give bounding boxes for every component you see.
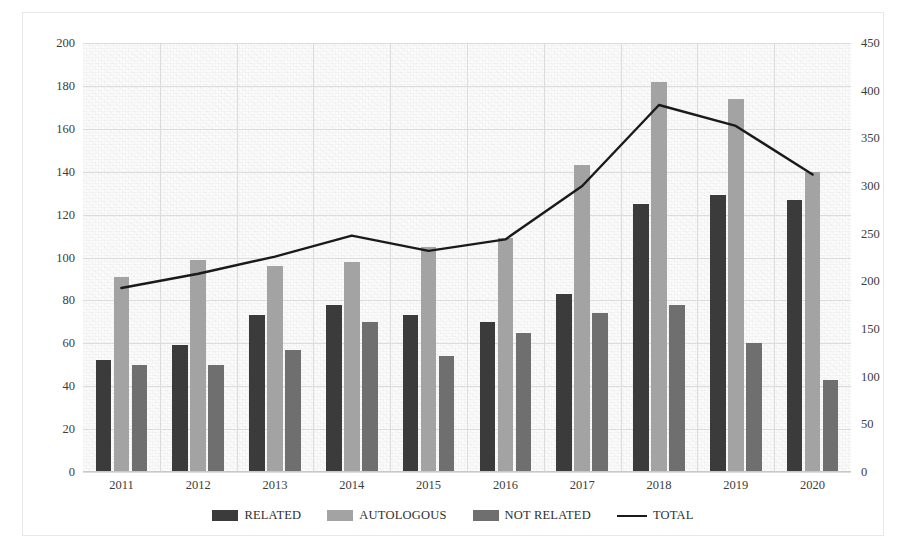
y-tick-right-50: 50 <box>861 418 907 431</box>
legend-item-related[interactable]: RELATED <box>212 508 301 523</box>
y-tick-right-350: 350 <box>861 132 907 145</box>
y-tick-left-40: 40 <box>29 380 75 393</box>
legend-label: NOT RELATED <box>505 508 591 523</box>
x-tick-2012: 2012 <box>160 479 237 492</box>
y-tick-right-200: 200 <box>861 275 907 288</box>
total-line-path <box>121 105 812 288</box>
y-tick-left-100: 100 <box>29 252 75 265</box>
legend-label: RELATED <box>244 508 301 523</box>
x-tick-2014: 2014 <box>313 479 390 492</box>
chart-frame: 020406080100120140160180200 050100150200… <box>22 12 884 536</box>
x-tick-2017: 2017 <box>544 479 621 492</box>
x-tick-2019: 2019 <box>697 479 774 492</box>
gridline-horizontal <box>83 472 851 473</box>
y-tick-right-250: 250 <box>861 228 907 241</box>
y-tick-left-160: 160 <box>29 123 75 136</box>
y-tick-left-60: 60 <box>29 337 75 350</box>
x-tick-2011: 2011 <box>83 479 160 492</box>
legend-item-not-related[interactable]: NOT RELATED <box>473 508 591 523</box>
plot-area <box>83 43 851 472</box>
y-tick-right-300: 300 <box>861 180 907 193</box>
x-tick-2020: 2020 <box>774 479 851 492</box>
y-tick-left-180: 180 <box>29 80 75 93</box>
y-tick-left-80: 80 <box>29 294 75 307</box>
legend-line-swatch-icon <box>617 515 647 517</box>
chart-legend: RELATEDAUTOLOGOUSNOT RELATEDTOTAL <box>23 508 883 523</box>
x-tick-2013: 2013 <box>237 479 314 492</box>
total-line-series <box>83 43 851 472</box>
y-tick-right-450: 450 <box>861 37 907 50</box>
x-tick-2015: 2015 <box>390 479 467 492</box>
legend-item-autologous[interactable]: AUTOLOGOUS <box>327 508 446 523</box>
x-tick-2018: 2018 <box>621 479 698 492</box>
y-tick-left-20: 20 <box>29 423 75 436</box>
x-axis-baseline <box>83 471 851 472</box>
legend-label: TOTAL <box>653 508 694 523</box>
y-tick-right-100: 100 <box>861 371 907 384</box>
x-tick-2016: 2016 <box>467 479 544 492</box>
legend-color-swatch-icon <box>473 510 499 521</box>
y-tick-right-0: 0 <box>861 466 907 479</box>
y-tick-right-150: 150 <box>861 323 907 336</box>
legend-color-swatch-icon <box>327 510 353 521</box>
y-tick-left-0: 0 <box>29 466 75 479</box>
y-tick-left-200: 200 <box>29 37 75 50</box>
legend-item-total[interactable]: TOTAL <box>617 508 694 523</box>
legend-color-swatch-icon <box>212 510 238 521</box>
y-tick-left-120: 120 <box>29 209 75 222</box>
legend-label: AUTOLOGOUS <box>359 508 446 523</box>
y-tick-right-400: 400 <box>861 85 907 98</box>
y-tick-left-140: 140 <box>29 166 75 179</box>
